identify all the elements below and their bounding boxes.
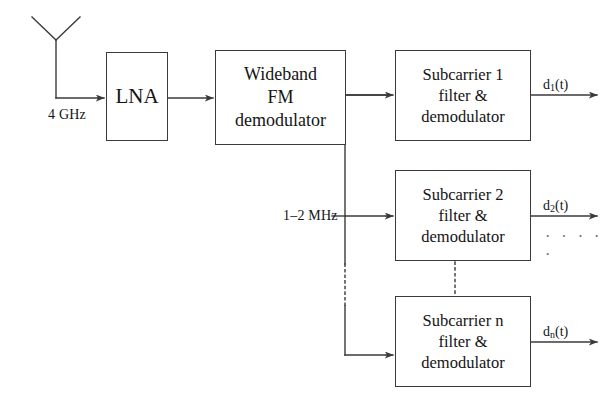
label-output-dn-suffix: (t) xyxy=(555,324,568,339)
ellipsis-between-outputs: · · · · · xyxy=(545,228,616,264)
block-sc2-line2: filter & xyxy=(438,205,487,226)
block-scn-line2: filter & xyxy=(438,331,487,352)
label-input-frequency: 4 GHz xyxy=(48,107,86,123)
block-scn-line1: Subcarrier n xyxy=(422,310,503,331)
label-output-d1-base: d xyxy=(543,77,550,92)
block-diagram: LNA Wideband FM demodulator Subcarrier 1… xyxy=(0,0,616,403)
label-output-d1-sub: 1 xyxy=(550,82,555,93)
block-lna[interactable]: LNA xyxy=(106,52,168,141)
label-output-d1: d1(t) xyxy=(543,77,568,93)
label-output-d2-sub: 2 xyxy=(550,203,555,214)
label-output-dn: dn(t) xyxy=(543,324,568,340)
block-sc1-line2: filter & xyxy=(438,85,487,106)
block-lna-line1: LNA xyxy=(115,83,158,110)
block-sc2-line3: demodulator xyxy=(421,226,504,247)
antenna-icon xyxy=(32,17,80,98)
block-sc2-line1: Subcarrier 2 xyxy=(422,184,503,205)
block-subcarrier-2[interactable]: Subcarrier 2 filter & demodulator xyxy=(395,170,531,261)
label-output-d2-base: d xyxy=(543,198,550,213)
block-wbfm-line2: FM xyxy=(267,86,293,109)
block-sc1-line1: Subcarrier 1 xyxy=(422,64,503,85)
label-output-dn-sub: n xyxy=(550,329,555,340)
label-bus-frequency: 1–2 MHz xyxy=(283,208,338,224)
label-output-d2: d2(t) xyxy=(543,198,568,214)
label-output-d2-suffix: (t) xyxy=(555,198,568,213)
block-subcarrier-1[interactable]: Subcarrier 1 filter & demodulator xyxy=(395,50,531,141)
block-scn-line3: demodulator xyxy=(421,352,504,373)
label-output-d1-suffix: (t) xyxy=(555,77,568,92)
block-subcarrier-n[interactable]: Subcarrier n filter & demodulator xyxy=(395,296,531,387)
block-wbfm-line3: demodulator xyxy=(235,109,326,132)
label-output-dn-base: d xyxy=(543,324,550,339)
block-sc1-line3: demodulator xyxy=(421,106,504,127)
block-wbfm-line1: Wideband xyxy=(244,63,317,86)
block-wideband-fm-demodulator[interactable]: Wideband FM demodulator xyxy=(215,50,346,145)
